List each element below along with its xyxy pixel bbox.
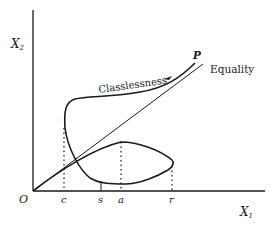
- diagram-canvas: X2 X1 O c s a r Classlessness Equality P: [0, 0, 277, 227]
- equality-label: Equality: [210, 63, 254, 75]
- tick-label-s: s: [98, 194, 103, 205]
- tick-label-a: a: [118, 194, 124, 205]
- origin-label: O: [19, 193, 28, 206]
- classlessness-label: Classlessness: [98, 74, 168, 95]
- tick-label-c: c: [61, 194, 67, 205]
- tick-label-r: r: [169, 194, 175, 205]
- endpoint-label-p: P: [192, 49, 202, 61]
- x-axis-label: X1: [239, 205, 253, 220]
- y-axis-label: X2: [10, 37, 25, 52]
